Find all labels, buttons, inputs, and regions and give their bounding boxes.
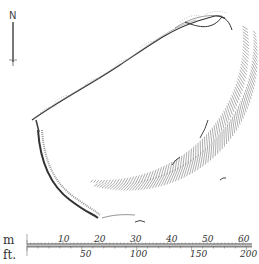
north-west-rampart	[32, 16, 232, 121]
scale-label-metres: 60	[238, 235, 249, 244]
scale-label-feet: 200	[240, 250, 257, 259]
south-rampart	[102, 215, 135, 218]
scale-label-metres: 50	[202, 235, 213, 244]
scale-label-metres: 10	[58, 235, 69, 244]
scale-label-feet: 100	[130, 250, 147, 259]
scale-label-metres: 20	[94, 235, 105, 244]
scale-unit-feet: ft.	[3, 249, 16, 261]
scale-label-metres: 40	[166, 235, 177, 244]
north-arrow-icon	[9, 22, 17, 66]
scale-label-feet: 150	[190, 250, 207, 259]
scale-unit-metres: m	[3, 234, 14, 246]
south-west-rampart	[36, 120, 100, 218]
scale-label-metres: 30	[130, 235, 141, 244]
interior-features	[135, 120, 226, 222]
scale-label-feet: 50	[80, 250, 91, 259]
east-scarp-hachures	[91, 26, 258, 190]
site-plan	[0, 0, 259, 264]
